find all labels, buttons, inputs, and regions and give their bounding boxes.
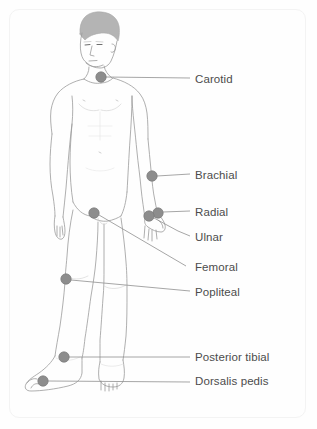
hair-shape: [80, 12, 120, 41]
label-radial: Radial: [195, 206, 228, 218]
foot-right-toes: [101, 381, 117, 391]
arm-right-inner: [132, 96, 145, 219]
brow-right: [96, 42, 103, 43]
ankle-right: [101, 364, 123, 366]
label-carotid: Carotid: [195, 73, 233, 85]
pulse-marker-dorsalis-pedis[interactable]: [38, 376, 48, 386]
chest-right: [101, 104, 121, 111]
hip-left: [73, 202, 90, 216]
pulse-marker-ulnar[interactable]: [144, 211, 154, 221]
label-femoral: Femoral: [195, 261, 238, 273]
diagram-canvas: [0, 0, 317, 429]
mouth-outline: [89, 61, 97, 62]
ear-outline: [111, 44, 115, 52]
pulse-marker-brachial[interactable]: [147, 171, 157, 181]
leg-left-inner: [82, 222, 98, 358]
leader-line-carotid: [106, 77, 190, 78]
pulse-points-diagram: CarotidBrachialRadialUlnarFemoralPoplite…: [0, 0, 317, 429]
leg-right-inner: [100, 224, 104, 362]
nipple-left: [83, 100, 85, 101]
nipple-right: [116, 100, 118, 101]
eye-left: [85, 45, 90, 46]
label-dorsalis-pedis: Dorsalis pedis: [195, 375, 269, 387]
nose-outline: [90, 46, 94, 56]
waist-right: [127, 96, 132, 192]
chest-left: [79, 104, 99, 111]
leader-line-radial: [163, 211, 190, 212]
pulse-marker-posterior-tibial[interactable]: [59, 352, 69, 362]
leg-right-outer: [121, 218, 127, 360]
neck-left: [84, 67, 89, 79]
hand-left-fingers: [57, 226, 63, 237]
knee-right: [104, 285, 126, 289]
brow-left: [84, 42, 91, 43]
jaw-line: [86, 63, 103, 67]
leader-line-dorsalis-pedis: [48, 381, 190, 382]
pulse-marker-femoral[interactable]: [89, 208, 99, 218]
leader-line-ulnar: [154, 218, 190, 236]
leader-line-popliteal: [71, 280, 190, 291]
label-popliteal: Popliteal: [195, 286, 240, 298]
leader-line-brachial: [157, 174, 190, 176]
label-brachial: Brachial: [195, 169, 237, 181]
foot-left-outline: [25, 356, 82, 391]
hip-right: [121, 192, 127, 216]
navel: [99, 152, 101, 153]
leader-line-femoral: [99, 215, 186, 266]
arm-left-outer: [50, 134, 55, 216]
body-figure: [25, 12, 165, 391]
arm-left-inner: [63, 96, 73, 217]
lower-abdomen-line: [86, 168, 114, 171]
torso-left-outline: [51, 79, 84, 134]
label-posterior-tibial: Posterior tibial: [195, 351, 269, 363]
pulse-marker-carotid[interactable]: [96, 72, 106, 82]
pulse-marker-popliteal[interactable]: [61, 274, 71, 284]
label-ulnar: Ulnar: [195, 231, 223, 243]
foot-right-outline: [99, 360, 125, 387]
